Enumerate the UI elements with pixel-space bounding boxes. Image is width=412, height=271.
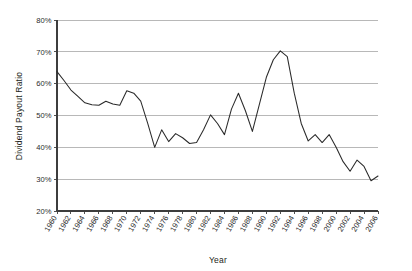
gridlines <box>57 20 378 179</box>
x-tick-label-1982: 1982 <box>196 214 212 233</box>
x-tick-label-1970: 1970 <box>112 214 128 233</box>
dividend-payout-ratio-chart: 80%70%60%50%40%30%20% 196019621964196619… <box>0 0 412 271</box>
x-tick-label-1986: 1986 <box>224 214 240 233</box>
x-tick-label-2004: 2004 <box>350 214 366 233</box>
y-tick-label-50: 50% <box>36 111 51 120</box>
x-tick-label-2000: 2000 <box>322 214 338 233</box>
x-tick-label-1966: 1966 <box>84 214 100 233</box>
x-tick-label-1988: 1988 <box>238 214 254 233</box>
x-tick-label-1964: 1964 <box>70 214 86 233</box>
y-tick-label-20: 20% <box>36 207 51 216</box>
x-tick-label-1980: 1980 <box>182 214 198 233</box>
x-tick-label-1968: 1968 <box>98 214 114 233</box>
x-tick-label-1976: 1976 <box>154 214 170 233</box>
x-tick-label-1960: 1960 <box>42 214 58 233</box>
x-tick-label-2006: 2006 <box>363 214 379 233</box>
x-tick-label-1998: 1998 <box>308 214 324 233</box>
x-tick-label-1992: 1992 <box>266 214 282 233</box>
y-tick-label-40: 40% <box>36 143 51 152</box>
y-tick-label-70: 70% <box>36 48 51 57</box>
x-axis-title: Year <box>209 255 227 265</box>
x-tick-label-1990: 1990 <box>252 214 268 233</box>
y-tick-label-60: 60% <box>36 79 51 88</box>
x-tick-label-1996: 1996 <box>294 214 310 233</box>
y-axis-tick-labels: 80%70%60%50%40%30%20% <box>36 16 51 216</box>
y-axis-title: Dividend Payout Ratio <box>14 72 24 160</box>
x-axis-tick-labels: 1960196219641966196819701972197419761978… <box>42 214 379 233</box>
x-tick-label-1994: 1994 <box>280 214 296 233</box>
x-tick-label-1984: 1984 <box>210 214 226 233</box>
x-tick-label-1974: 1974 <box>140 214 156 233</box>
x-tick-label-1962: 1962 <box>56 214 72 233</box>
chart-canvas: 80%70%60%50%40%30%20% 196019621964196619… <box>0 0 412 271</box>
x-tick-label-1972: 1972 <box>126 214 142 233</box>
y-tick-label-30: 30% <box>36 175 51 184</box>
x-tick-label-1978: 1978 <box>168 214 184 233</box>
x-tick-label-2002: 2002 <box>336 214 352 233</box>
y-tick-label-80: 80% <box>36 16 51 25</box>
